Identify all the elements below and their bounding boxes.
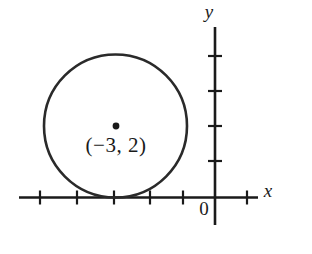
y-axis-label: y <box>203 1 214 22</box>
graph-figure: (−3, 2) x y 0 <box>0 0 312 254</box>
coordinate-plane-svg: (−3, 2) x y 0 <box>0 0 312 254</box>
center-point-label: (−3, 2) <box>86 133 147 157</box>
origin-label: 0 <box>199 198 209 219</box>
x-axis-label: x <box>263 180 273 201</box>
center-point-dot <box>113 123 120 130</box>
